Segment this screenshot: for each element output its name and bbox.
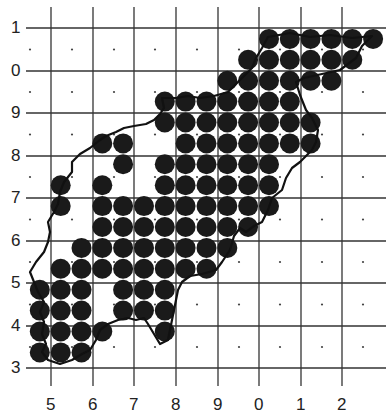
cell-dot (362, 303, 364, 305)
y-axis-label: 9 (11, 104, 20, 121)
x-axis-label: 2 (337, 396, 346, 413)
x-axis-label: 0 (254, 396, 263, 413)
cell-dot (29, 133, 31, 135)
cell-dot (321, 91, 323, 93)
occupied-cell-circle (197, 196, 217, 216)
occupied-cell-circle (259, 113, 279, 133)
cell-dot (196, 303, 198, 305)
occupied-cell-circle (259, 154, 279, 174)
grid-map (0, 0, 389, 418)
occupied-cell-circle (72, 322, 92, 342)
occupied-cell-circle (259, 92, 279, 112)
occupied-cell-circle (51, 301, 71, 321)
x-axis-label: 5 (46, 396, 55, 413)
occupied-cell-circle (280, 133, 300, 153)
y-axis-label: 0 (11, 62, 20, 79)
cell-dot (196, 48, 198, 50)
cell-dot (154, 346, 156, 348)
occupied-cell-circle (363, 29, 383, 49)
occupied-cell-circle (280, 113, 300, 133)
occupied-cell-circle (134, 217, 154, 237)
cell-dot (362, 261, 364, 263)
cell-dot (238, 176, 240, 178)
occupied-cell-circle (176, 92, 196, 112)
occupied-cell-circle (238, 133, 258, 153)
y-axis-label: 7 (11, 189, 20, 206)
occupied-cell-circle (238, 154, 258, 174)
cell-dot (154, 303, 156, 305)
occupied-cell-circle (301, 71, 321, 91)
occupied-cell-circle (197, 92, 217, 112)
y-axis-label: 8 (11, 147, 20, 164)
cell-dot (279, 176, 281, 178)
occupied-cell-circle (301, 50, 321, 70)
cell-dot (279, 48, 281, 50)
cell-dot (29, 261, 31, 263)
cell-dot (71, 133, 73, 135)
cell-dot (113, 218, 115, 220)
occupied-cell-circle (280, 92, 300, 112)
occupied-cell-circle (72, 301, 92, 321)
cell-dot (279, 261, 281, 263)
cell-dot (279, 218, 281, 220)
occupied-cell-circle (92, 217, 112, 237)
occupied-cell-circle (51, 280, 71, 300)
occupied-cell-circle (155, 175, 175, 195)
occupied-cell-circle (51, 322, 71, 342)
occupied-cell-circle (176, 113, 196, 133)
occupied-cell-circle (113, 133, 133, 153)
x-axis-label: 9 (213, 396, 222, 413)
occupied-cell-circle (176, 238, 196, 258)
occupied-cell-circle (321, 29, 341, 49)
occupied-cell-circle (176, 196, 196, 216)
occupied-cell-circle (113, 154, 133, 174)
cell-dot (238, 91, 240, 93)
occupied-cell-circle (217, 133, 237, 153)
cell-dot (196, 218, 198, 220)
occupied-cell-circle (197, 217, 217, 237)
cell-dot (238, 261, 240, 263)
occupied-cell-circle (301, 29, 321, 49)
cell-dot (113, 91, 115, 93)
occupied-cell-circle (321, 50, 341, 70)
occupied-cell-circle (113, 259, 133, 279)
occupied-cell-circle (51, 259, 71, 279)
cell-dot (29, 48, 31, 50)
y-axis-label: 5 (11, 274, 20, 291)
cell-dot (321, 48, 323, 50)
occupied-cell-circle (155, 196, 175, 216)
cell-dot (71, 91, 73, 93)
cell-dot (154, 261, 156, 263)
occupied-cell-circle (30, 322, 50, 342)
cell-dot (71, 48, 73, 50)
occupied-cell-circle (259, 50, 279, 70)
cell-dot (113, 261, 115, 263)
occupied-cell-circle (238, 175, 258, 195)
cell-dot (71, 176, 73, 178)
occupied-cell-circle (259, 133, 279, 153)
occupied-cell-circle (155, 259, 175, 279)
cell-dot (321, 218, 323, 220)
occupied-cell-circle (92, 259, 112, 279)
occupied-cell-circle (134, 259, 154, 279)
cell-dot (238, 48, 240, 50)
occupied-cell-circle (72, 238, 92, 258)
cell-dot (71, 303, 73, 305)
cell-dot (321, 303, 323, 305)
occupied-cell-circle (259, 71, 279, 91)
occupied-cell-circle (280, 29, 300, 49)
occupied-cell-circle (134, 238, 154, 258)
occupied-cell-circle (176, 175, 196, 195)
occupied-cell-circle (176, 217, 196, 237)
cell-dot (113, 48, 115, 50)
occupied-cell-circle (155, 217, 175, 237)
occupied-cell-circle (217, 175, 237, 195)
occupied-cell-circle (92, 175, 112, 195)
cell-dot (362, 48, 364, 50)
cell-dot (29, 91, 31, 93)
occupied-cell-circle (113, 196, 133, 216)
occupied-cell-circle (238, 217, 258, 237)
occupied-cell-circle (51, 342, 71, 362)
cell-dot (321, 346, 323, 348)
cell-dot (279, 303, 281, 305)
